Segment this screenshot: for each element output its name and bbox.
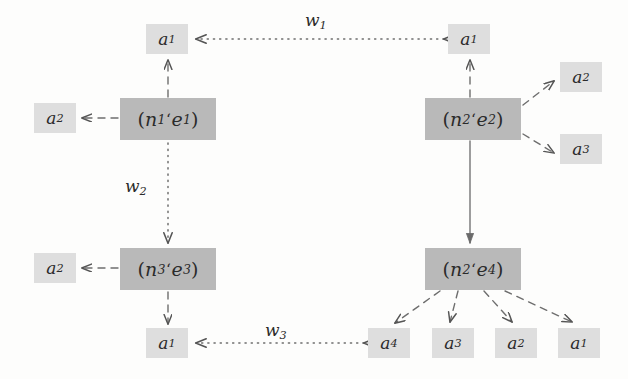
action-a3-bottom-label: a xyxy=(444,333,454,353)
node-n2e4-n-sub: 2 xyxy=(462,262,470,277)
action-a1-top-left-sub: 1 xyxy=(169,33,176,46)
weight-label-w3-text: w xyxy=(265,320,280,340)
action-a4-bottom[interactable]: a4 xyxy=(368,328,410,358)
action-a1-top-left-label: a xyxy=(158,29,168,49)
action-a4-bottom-label: a xyxy=(380,333,390,353)
node-n2e4-n: n xyxy=(450,258,462,280)
action-a2-left-upper-label: a xyxy=(46,108,56,128)
action-a1-bottom-left[interactable]: a1 xyxy=(146,328,188,358)
action-a2-left-lower[interactable]: a2 xyxy=(34,253,76,283)
weight-label-w1-sub: 1 xyxy=(320,19,327,32)
node-n1e1[interactable]: (n1ʻe1) xyxy=(120,98,216,140)
node-n3e3-open-paren: ( xyxy=(137,258,145,280)
node-n2e4[interactable]: (n2ʻe4) xyxy=(425,248,521,290)
weight-label-w2-sub: 2 xyxy=(140,185,147,198)
action-a1-top-right-label: a xyxy=(460,29,470,49)
weight-label-w1-text: w xyxy=(305,10,320,30)
action-a2-bottom-label: a xyxy=(507,333,517,353)
action-a2-bottom-sub: 2 xyxy=(518,337,525,350)
action-a2-left-upper[interactable]: a2 xyxy=(34,103,76,133)
weight-label-w2: w2 xyxy=(125,176,147,198)
action-a1-top-left[interactable]: a1 xyxy=(146,24,188,54)
action-a4-bottom-sub: 4 xyxy=(391,337,398,350)
node-n2e2-n: n xyxy=(450,108,462,130)
node-n1e1-e: e xyxy=(172,108,183,130)
diagram-canvas: (n1ʻe1) (n2ʻe2) (n3ʻe3) (n2ʻe4) a1 a1 a2… xyxy=(0,0,628,379)
weight-label-w1: w1 xyxy=(305,10,327,32)
weight-label-w3: w3 xyxy=(265,320,287,342)
node-n2e2[interactable]: (n2ʻe2) xyxy=(425,98,521,140)
node-n2e2-open-paren: ( xyxy=(442,108,450,130)
action-a1-bottom-label: a xyxy=(570,333,580,353)
action-a3-right-upper[interactable]: a3 xyxy=(560,134,602,164)
action-a1-top-right-sub: 1 xyxy=(471,33,478,46)
node-n2e4-close-paren: ) xyxy=(496,258,504,280)
action-a2-right-upper-sub: 2 xyxy=(583,71,590,84)
node-n2e2-close-paren: ) xyxy=(496,108,504,130)
node-n3e3-e-sub: 3 xyxy=(183,262,191,277)
node-n3e3-n-sub: 3 xyxy=(157,262,165,277)
node-n2e4-e-sub: 4 xyxy=(488,262,496,277)
edge-n2e2-to-a3-right xyxy=(523,134,554,153)
action-a1-bottom-left-label: a xyxy=(158,333,168,353)
node-n2e4-open-paren: ( xyxy=(442,258,450,280)
diagram-edges-layer xyxy=(0,0,628,379)
action-a2-left-upper-sub: 2 xyxy=(57,112,64,125)
edge-n2e2-to-a2-right xyxy=(523,81,554,105)
action-a1-top-right[interactable]: a1 xyxy=(448,24,490,54)
edge-n2e4-to-a1 xyxy=(505,291,572,322)
node-n1e1-e-sub: 1 xyxy=(183,112,191,127)
edge-n2e4-to-a3 xyxy=(450,291,458,322)
weight-label-w3-sub: 3 xyxy=(280,329,287,342)
action-a2-right-upper-label: a xyxy=(572,67,582,87)
action-a3-bottom-sub: 3 xyxy=(455,337,462,350)
node-n2e2-n-sub: 2 xyxy=(462,112,470,127)
node-n1e1-n-sub: 1 xyxy=(157,112,165,127)
node-n1e1-close-paren: ) xyxy=(191,108,199,130)
action-a1-bottom[interactable]: a1 xyxy=(558,328,600,358)
action-a2-left-lower-label: a xyxy=(46,258,56,278)
action-a3-right-upper-sub: 3 xyxy=(583,143,590,156)
action-a1-bottom-left-sub: 1 xyxy=(169,337,176,350)
edge-n2e4-to-a2 xyxy=(484,291,512,322)
action-a1-bottom-sub: 1 xyxy=(581,337,588,350)
action-a2-bottom[interactable]: a2 xyxy=(495,328,537,358)
node-n3e3-close-paren: ) xyxy=(191,258,199,280)
node-n1e1-open-paren: ( xyxy=(137,108,145,130)
action-a3-bottom[interactable]: a3 xyxy=(432,328,474,358)
node-n3e3-e: e xyxy=(172,258,183,280)
node-n2e2-e-sub: 2 xyxy=(488,112,496,127)
action-a2-right-upper[interactable]: a2 xyxy=(560,62,602,92)
node-n3e3-n: n xyxy=(145,258,157,280)
node-n1e1-n: n xyxy=(145,108,157,130)
edge-n2e4-to-a4 xyxy=(395,291,440,323)
node-n2e4-e: e xyxy=(477,258,488,280)
weight-label-w2-text: w xyxy=(125,176,140,196)
node-n2e2-e: e xyxy=(477,108,488,130)
action-a2-left-lower-sub: 2 xyxy=(57,262,64,275)
node-n3e3[interactable]: (n3ʻe3) xyxy=(120,248,216,290)
action-a3-right-upper-label: a xyxy=(572,139,582,159)
